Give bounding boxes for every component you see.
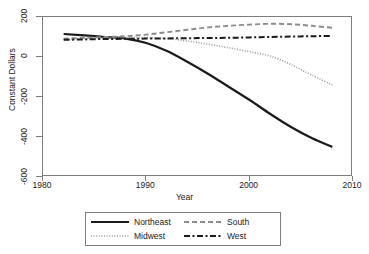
legend-item-south: South <box>183 217 276 227</box>
y-tick-label: 0 <box>20 42 29 70</box>
series-line-south <box>64 24 333 39</box>
legend-swatch-northeast <box>90 217 130 227</box>
series-line-midwest <box>64 38 333 85</box>
legend-item-west: West <box>183 231 276 241</box>
chart-legend: Northeast South Midwest West <box>85 212 281 246</box>
y-tick-label: -400 <box>20 122 29 150</box>
plot-lines <box>43 17 353 177</box>
y-tick-label: 200 <box>20 2 29 30</box>
x-tick-label: 1990 <box>125 180 165 190</box>
y-tick-label: -200 <box>20 82 29 110</box>
chart-figure: Constant Dollars 2000-200-400-6001980199… <box>0 0 369 254</box>
legend-label-south: South <box>227 217 249 227</box>
legend-swatch-midwest <box>90 231 130 241</box>
x-axis-title: Year <box>0 192 369 202</box>
legend-swatch-west <box>183 231 223 241</box>
legend-swatch-south <box>183 217 223 227</box>
plot-area <box>42 16 352 176</box>
x-tick-label: 2000 <box>229 180 269 190</box>
legend-item-midwest: Midwest <box>90 231 183 241</box>
legend-label-midwest: Midwest <box>134 231 165 241</box>
series-line-northeast <box>64 34 333 147</box>
x-tick-label: 2010 <box>332 180 369 190</box>
legend-label-northeast: Northeast <box>134 217 171 227</box>
x-tick-label: 1980 <box>22 180 62 190</box>
legend-item-northeast: Northeast <box>90 217 183 227</box>
y-axis-title: Constant Dollars <box>7 0 17 160</box>
legend-label-west: West <box>227 231 246 241</box>
